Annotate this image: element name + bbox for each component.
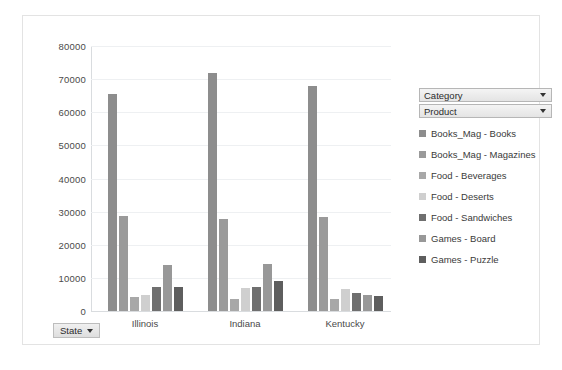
legend-swatch-icon: [419, 256, 426, 263]
legend-item-label: Food - Beverages: [431, 170, 507, 181]
y-tick-label: 80000: [59, 41, 86, 52]
legend-item[interactable]: Games - Board: [419, 231, 552, 245]
bar-group: [308, 46, 383, 311]
legend-item[interactable]: Books_Mag - Books: [419, 126, 552, 140]
y-tick-label: 70000: [59, 74, 86, 85]
chevron-down-icon: [540, 93, 546, 97]
legend-item-label: Games - Board: [431, 233, 495, 244]
bar[interactable]: [108, 94, 117, 311]
chart-legend: Category Product Books_Mag - BooksBooks_…: [419, 88, 552, 273]
legend-item-label: Books_Mag - Magazines: [431, 149, 536, 160]
bar[interactable]: [241, 288, 250, 311]
bar[interactable]: [319, 217, 328, 311]
state-slicer-button[interactable]: State: [53, 323, 100, 338]
bar-group: [108, 46, 183, 311]
bar[interactable]: [330, 299, 339, 311]
bar[interactable]: [352, 293, 361, 311]
legend-swatch-icon: [419, 214, 426, 221]
legend-item-label: Games - Puzzle: [431, 254, 499, 265]
filter-button-category[interactable]: Category: [419, 88, 552, 102]
bar[interactable]: [130, 297, 139, 311]
x-axis-category-label: Illinois: [132, 318, 158, 329]
bar[interactable]: [230, 299, 239, 311]
legend-item[interactable]: Food - Deserts: [419, 189, 552, 203]
legend-swatch-icon: [419, 193, 426, 200]
legend-item-label: Food - Sandwiches: [431, 212, 512, 223]
filter-label-category: Category: [424, 90, 463, 101]
legend-item[interactable]: Games - Puzzle: [419, 252, 552, 266]
bar-group: [208, 46, 283, 311]
legend-item-label: Food - Deserts: [431, 191, 494, 202]
y-tick-label: 50000: [59, 140, 86, 151]
bar[interactable]: [274, 281, 283, 311]
bar[interactable]: [263, 264, 272, 311]
legend-swatch-icon: [419, 151, 426, 158]
legend-item[interactable]: Food - Sandwiches: [419, 210, 552, 224]
legend-item[interactable]: Books_Mag - Magazines: [419, 147, 552, 161]
bar[interactable]: [308, 86, 317, 311]
chart-frame: 0100002000030000400005000060000700008000…: [22, 15, 540, 345]
y-tick-label: 0: [81, 306, 86, 317]
bar[interactable]: [208, 73, 217, 312]
legend-item-label: Books_Mag - Books: [431, 128, 516, 139]
bar[interactable]: [152, 287, 161, 311]
chevron-down-icon: [87, 329, 93, 333]
chart-screenshot: 0100002000030000400005000060000700008000…: [0, 0, 562, 370]
y-axis-labels: 0100002000030000400005000060000700008000…: [23, 46, 86, 311]
chevron-down-icon: [540, 109, 546, 113]
bar[interactable]: [341, 289, 350, 311]
bar[interactable]: [163, 265, 172, 311]
y-tick-label: 10000: [59, 272, 86, 283]
gridline: [91, 311, 391, 312]
bar[interactable]: [174, 287, 183, 312]
filter-button-product[interactable]: Product: [419, 104, 552, 118]
legend-swatch-icon: [419, 130, 426, 137]
legend-swatch-icon: [419, 172, 426, 179]
y-tick-label: 30000: [59, 206, 86, 217]
x-axis-category-label: Kentucky: [325, 318, 364, 329]
legend-item[interactable]: Food - Beverages: [419, 168, 552, 182]
legend-swatch-icon: [419, 235, 426, 242]
bar[interactable]: [374, 296, 383, 311]
x-axis-category-label: Indiana: [229, 318, 260, 329]
y-tick-label: 60000: [59, 107, 86, 118]
y-tick-label: 40000: [59, 173, 86, 184]
bar[interactable]: [252, 287, 261, 312]
plot-area: IllinoisIndianaKentucky: [91, 46, 391, 311]
filter-label-product: Product: [424, 106, 457, 117]
bar[interactable]: [119, 216, 128, 311]
y-tick-label: 20000: [59, 239, 86, 250]
legend-items: Books_Mag - BooksBooks_Mag - MagazinesFo…: [419, 126, 552, 266]
state-slicer-label: State: [60, 325, 82, 336]
bar[interactable]: [141, 295, 150, 311]
bar[interactable]: [363, 295, 372, 311]
bar[interactable]: [219, 219, 228, 311]
